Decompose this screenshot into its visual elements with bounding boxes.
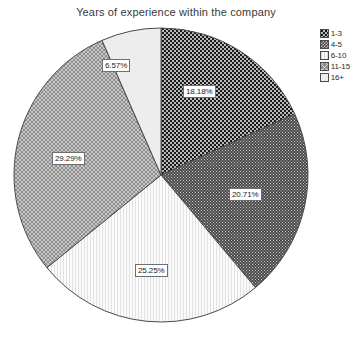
legend-item-11-15[interactable]: 11-15 (320, 61, 350, 71)
legend-swatch-plain-light-icon (320, 73, 329, 82)
legend-swatch-checkerboard-dark-icon (320, 29, 329, 38)
legend-label-6-10: 6-10 (331, 51, 347, 60)
slice-label-1-3: 18.18% (183, 85, 216, 98)
slice-label-4-5: 20.71% (229, 188, 262, 201)
legend-item-4-5[interactable]: 4-5 (320, 39, 350, 49)
legend-swatch-vertical-light-icon (320, 51, 329, 60)
legend-swatch-fine-dot-gray-icon (320, 40, 329, 49)
slice-label-6-10: 25.25% (135, 264, 168, 277)
legend-swatch-diagonal-cross-gray-icon (320, 62, 329, 71)
legend-item-6-10[interactable]: 6-10 (320, 50, 350, 60)
pie-canvas (0, 0, 352, 349)
chart-legend: 1-3 4-5 6-10 11-15 16+ (320, 28, 350, 82)
pie-chart-figure: Years of experience within the company (0, 0, 352, 349)
legend-item-1-3[interactable]: 1-3 (320, 28, 350, 38)
slice-label-11-15: 29.29% (52, 152, 85, 165)
legend-item-16-plus[interactable]: 16+ (320, 72, 350, 82)
pie-slices (14, 28, 308, 322)
slice-label-16-plus: 6.57% (102, 59, 130, 72)
legend-label-11-15: 11-15 (331, 62, 350, 71)
legend-label-16-plus: 16+ (331, 73, 344, 82)
legend-label-1-3: 1-3 (331, 29, 342, 38)
legend-label-4-5: 4-5 (331, 40, 342, 49)
